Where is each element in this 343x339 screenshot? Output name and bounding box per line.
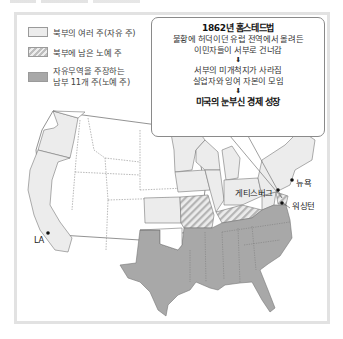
iowa-state xyxy=(175,170,210,192)
new-york-marker xyxy=(290,178,294,182)
down-arrow-icon: ⬇ xyxy=(152,87,324,96)
michigan-state xyxy=(222,146,240,180)
callout-title: 1862년 홈스테드법 xyxy=(152,22,324,34)
homestead-act-callout: 1862년 홈스테드법 불황에 허덕이던 유럽 전역에서 몰려든 이민자들이 서… xyxy=(151,17,325,137)
missouri-state xyxy=(180,195,214,228)
callout-line: 실업자와 잉여 자본이 모임 xyxy=(152,76,324,87)
callout-line: 불황에 허덕이던 유럽 전역에서 몰려든 xyxy=(152,34,324,45)
callout-result: 미국의 눈부신 경제 성장 xyxy=(152,96,324,108)
callout-line: 서부의 미개척지가 사라짐 xyxy=(152,65,324,76)
callout-line: 이민자들이 서부로 건너감 xyxy=(152,45,324,56)
kansas-state xyxy=(144,197,181,223)
gettysburg-marker xyxy=(276,188,280,192)
new-york-label: 뉴욕 xyxy=(296,176,311,188)
la-label: LA xyxy=(34,235,44,245)
down-arrow-icon: ⬇ xyxy=(152,56,324,65)
la-marker xyxy=(46,231,50,235)
washington-label: 워싱턴 xyxy=(292,199,315,211)
gettysburg-label: 게티스버그 xyxy=(235,186,273,198)
